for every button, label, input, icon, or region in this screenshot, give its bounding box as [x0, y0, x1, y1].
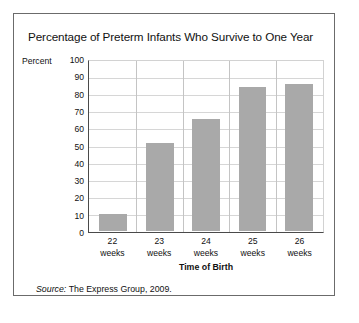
source-label: Source:: [36, 284, 66, 294]
y-axis-tick-labels: 1009080706050403020100: [58, 60, 84, 233]
y-tick-label: 20: [60, 193, 84, 203]
x-tick-label: 22weeks: [89, 236, 136, 259]
y-tick-label: 70: [60, 107, 84, 117]
bar: [99, 214, 127, 231]
y-tick-label: 50: [60, 142, 84, 152]
x-tick-label: 26weeks: [276, 236, 323, 259]
y-tick-label: 80: [60, 90, 84, 100]
bar-slot: [90, 62, 136, 231]
x-tick-label: 24weeks: [183, 236, 230, 259]
source-note: Source: The Express Group, 2009.: [36, 284, 172, 294]
bar: [192, 119, 220, 231]
bar-slot: [183, 62, 229, 231]
y-tick-label: 30: [60, 176, 84, 186]
y-tick-label: 100: [60, 55, 84, 65]
bar: [285, 84, 313, 231]
x-tick-label: 23weeks: [136, 236, 183, 259]
source-text: The Express Group, 2009.: [69, 284, 172, 294]
chart-title: Percentage of Preterm Infants Who Surviv…: [28, 30, 324, 44]
plot-area-wrapper: [88, 60, 324, 233]
x-axis-tick-labels: 22weeks23weeks24weeks25weeks26weeks: [89, 236, 323, 259]
y-tick-label: 0: [60, 228, 84, 238]
bar-series: [90, 62, 322, 231]
figure-frame: Percentage of Preterm Infants Who Surviv…: [13, 13, 335, 296]
y-tick-label: 10: [60, 211, 84, 221]
y-tick-label: 40: [60, 159, 84, 169]
bar-slot: [136, 62, 182, 231]
x-axis-title: Time of Birth: [89, 262, 323, 272]
bar-slot: [276, 62, 322, 231]
y-axis-title: Percent: [22, 56, 52, 66]
bar: [239, 87, 267, 231]
bar: [146, 143, 174, 231]
y-tick-label: 90: [60, 72, 84, 82]
x-tick-label: 25weeks: [229, 236, 276, 259]
y-tick-label: 60: [60, 124, 84, 134]
plot-area: [88, 60, 324, 233]
bar-slot: [229, 62, 275, 231]
